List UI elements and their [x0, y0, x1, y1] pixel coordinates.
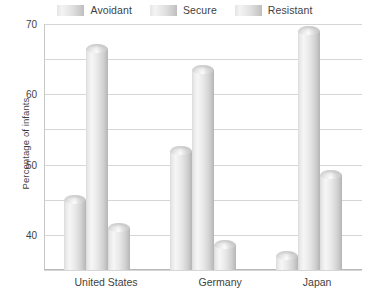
bar-cap: [192, 66, 214, 74]
bar-cap: [320, 171, 342, 179]
y-tick-label: 50: [26, 159, 37, 170]
bar-resistant-germany[interactable]: [214, 245, 236, 270]
bar-cap-shade: [193, 65, 213, 72]
legend-swatch-secure: [150, 5, 177, 16]
y-tick-label: 60: [26, 89, 37, 100]
bar-secure-germany[interactable]: [192, 70, 214, 270]
bar-cap: [108, 224, 130, 232]
chart-legend: Avoidant Secure Resistant: [0, 2, 370, 18]
bar-chart: Avoidant Secure Resistant Percentage of …: [0, 0, 370, 301]
y-axis-title: Percentage of infants: [20, 64, 31, 224]
legend-label-secure: Secure: [183, 4, 217, 16]
y-tick-label: 70: [26, 19, 37, 30]
x-axis-label: United States: [75, 276, 138, 288]
legend-label-resistant: Resistant: [268, 4, 313, 16]
legend-swatch-avoidant: [57, 5, 84, 16]
bar-cap-shade: [65, 195, 85, 202]
x-axis-label: Japan: [303, 276, 332, 288]
bar-resistant-united-states[interactable]: [108, 228, 130, 270]
bar-resistant-japan[interactable]: [320, 175, 342, 270]
bar-cap-shade: [321, 170, 341, 177]
bar-cap: [276, 252, 298, 260]
bar-cap: [86, 45, 108, 53]
plot-area: 010203040506070: [44, 24, 362, 270]
bar-secure-japan[interactable]: [298, 31, 320, 270]
bar-cap-shade: [299, 26, 319, 33]
x-axis-labels: United StatesGermanyJapan: [44, 276, 362, 288]
bar-cap-shade: [277, 251, 297, 258]
bar-cap-shade: [215, 240, 235, 247]
bar-cap-shade: [87, 44, 107, 51]
x-axis-label: Germany: [199, 276, 242, 288]
bar-cap: [170, 147, 192, 155]
bar-avoidant-germany[interactable]: [170, 151, 192, 270]
bar-group: [170, 24, 236, 270]
bar-secure-united-states[interactable]: [86, 49, 108, 270]
gridline: 0: [44, 270, 362, 271]
bar-cap: [298, 27, 320, 35]
bar-cap: [64, 196, 86, 204]
bar-cap-shade: [109, 223, 129, 230]
legend-label-avoidant: Avoidant: [90, 4, 131, 16]
bar-cap-shade: [171, 146, 191, 153]
bar-group: [64, 24, 130, 270]
legend-item-avoidant: Avoidant: [57, 4, 131, 16]
bar-cap: [214, 241, 236, 249]
bar-avoidant-united-states[interactable]: [64, 200, 86, 270]
legend-item-secure: Secure: [150, 4, 217, 16]
bar-avoidant-japan[interactable]: [276, 256, 298, 270]
bar-groups: [44, 24, 362, 270]
bar-group: [276, 24, 342, 270]
legend-swatch-resistant: [235, 5, 262, 16]
legend-item-resistant: Resistant: [235, 4, 313, 16]
y-tick-label: 40: [26, 229, 37, 240]
